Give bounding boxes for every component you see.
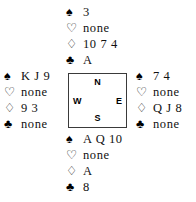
suit-row-spades: ♠ 7 4 [136,68,182,84]
east-clubs-cards: none [149,116,180,132]
diamond-icon: ♢ [66,163,79,179]
south-hearts-cards: none [79,147,110,163]
diamond-icon: ♢ [136,100,149,116]
suit-row-hearts: ♡ none [4,84,50,100]
suit-row-diamonds: ♢ Q J 8 [136,100,182,116]
suit-row-hearts: ♡ none [136,84,182,100]
compass-label-west: W [73,96,82,105]
east-spades-cards: 7 4 [149,68,170,84]
spade-icon: ♠ [66,131,79,147]
south-spades-cards: A Q 10 [79,131,123,147]
suit-row-diamonds: ♢ A [66,163,123,179]
north-spades-cards: 3 [79,4,90,20]
diamond-icon: ♢ [4,100,17,116]
east-hearts-cards: none [149,84,180,100]
suit-row-clubs: ♣ A [66,52,118,68]
heart-icon: ♡ [66,147,79,163]
heart-icon: ♡ [4,84,17,100]
compass-label-north: N [94,78,101,87]
suit-row-spades: ♠ K J 9 [4,68,50,84]
heart-icon: ♡ [66,20,79,36]
suit-row-hearts: ♡ none [66,20,118,36]
south-diamonds-cards: A [79,163,93,179]
north-hearts-cards: none [79,20,110,36]
north-clubs-cards: A [79,52,93,68]
club-icon: ♣ [136,116,149,132]
compass-label-east: E [116,96,122,105]
hand-north: ♠ 3 ♡ none ♢ 10 7 4 ♣ A [66,4,118,68]
suit-row-clubs: ♣ none [136,116,182,132]
club-icon: ♣ [4,116,17,132]
diamond-icon: ♢ [66,36,79,52]
spade-icon: ♠ [4,68,17,84]
suit-row-hearts: ♡ none [66,147,123,163]
west-spades-cards: K J 9 [17,68,50,84]
north-diamonds-cards: 10 7 4 [79,36,118,52]
suit-row-diamonds: ♢ 10 7 4 [66,36,118,52]
suit-row-clubs: ♣ none [4,116,50,132]
hand-west: ♠ K J 9 ♡ none ♢ 9 3 ♣ none [4,68,50,132]
bridge-hand-diagram: ♠ 3 ♡ none ♢ 10 7 4 ♣ A ♠ K J 9 ♡ none ♢… [0,0,196,202]
heart-icon: ♡ [136,84,149,100]
suit-row-diamonds: ♢ 9 3 [4,100,50,116]
compass-label-south: S [94,114,100,123]
west-diamonds-cards: 9 3 [17,100,38,116]
west-hearts-cards: none [17,84,48,100]
suit-row-spades: ♠ A Q 10 [66,131,123,147]
west-clubs-cards: none [17,116,48,132]
hand-south: ♠ A Q 10 ♡ none ♢ A ♣ 8 [66,131,123,195]
suit-row-spades: ♠ 3 [66,4,118,20]
east-diamonds-cards: Q J 8 [149,100,182,116]
hand-east: ♠ 7 4 ♡ none ♢ Q J 8 ♣ none [136,68,182,132]
spade-icon: ♠ [136,68,149,84]
spade-icon: ♠ [66,4,79,20]
compass-box: N W E S [68,73,127,128]
south-clubs-cards: 8 [79,179,90,195]
suit-row-clubs: ♣ 8 [66,179,123,195]
club-icon: ♣ [66,179,79,195]
club-icon: ♣ [66,52,79,68]
